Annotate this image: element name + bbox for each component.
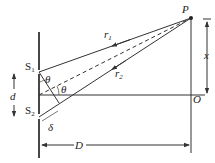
double-slit-diagram: P O S1 S2 r1 r2 θ θ δ d D x [0, 0, 215, 163]
label-s2: S2 [25, 104, 35, 118]
label-theta-upper: θ [45, 73, 51, 85]
delta-bracket [42, 111, 58, 121]
label-D: D [74, 139, 83, 151]
point-p-dot [189, 16, 193, 20]
theta-arc-center [57, 86, 59, 95]
label-x: x [203, 49, 209, 61]
ray-r1-arrow [112, 40, 130, 46]
label-s1: S1 [25, 60, 35, 74]
label-delta: δ [48, 121, 54, 133]
label-r1: r1 [104, 28, 112, 42]
label-r2: r2 [115, 67, 123, 81]
label-theta-center: θ [61, 83, 67, 95]
label-o: O [193, 93, 201, 105]
label-d: d [10, 90, 16, 102]
label-p: P [181, 3, 189, 15]
